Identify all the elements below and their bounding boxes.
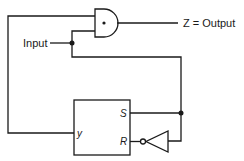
junction-input	[70, 41, 75, 46]
ff-y-label: y	[76, 128, 83, 139]
output-label: Z = Output	[183, 17, 235, 29]
inverter-gate	[146, 131, 168, 152]
ff-s-label: S	[120, 108, 127, 119]
input-label: Input	[23, 37, 47, 49]
circuit-diagram: Input Z = Output y S R	[0, 0, 244, 161]
ff-r-label: R	[120, 136, 127, 147]
inverter-bubble	[141, 139, 146, 144]
junction-s	[179, 111, 184, 116]
and-gate	[95, 9, 118, 37]
and-gate-dot	[102, 21, 105, 24]
